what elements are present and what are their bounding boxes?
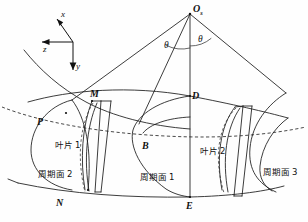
label-point-N: N xyxy=(56,198,63,208)
cone-ray-to-B xyxy=(139,14,190,124)
annulus-top-rim-arc xyxy=(28,90,288,118)
label-periodic-surface-2: 周期面 2 xyxy=(38,170,72,179)
shroud-generator-curve xyxy=(24,50,190,129)
blade-2-suction-curve xyxy=(225,108,240,192)
label-point-D: D xyxy=(192,91,199,101)
periodic-surface-3-group xyxy=(250,93,288,192)
diagram-svg xyxy=(0,0,308,222)
hidden-mid-arc xyxy=(2,107,306,137)
annulus-bottom-rim-arc xyxy=(18,183,284,197)
label-blade-2: 叶片 2 xyxy=(200,147,225,156)
label-periodic-surface-3: 周期面 3 xyxy=(263,168,297,177)
cone-right-edge xyxy=(190,14,286,93)
label-apex-Os: Os xyxy=(193,4,203,17)
blade-1-group xyxy=(80,101,111,192)
coordinate-axes-group xyxy=(42,19,76,70)
periodic-surface-1-inner-fold xyxy=(143,117,190,133)
label-axis-z: z xyxy=(43,45,47,54)
label-axis-y: y xyxy=(76,62,80,71)
axis-x-arrowhead xyxy=(57,19,63,26)
point-marker-N xyxy=(87,189,89,191)
point-marker-D xyxy=(189,95,191,97)
point-markers-group xyxy=(65,13,191,198)
blade-1-panel-left-line xyxy=(95,101,101,192)
periodic-surface-3-hub-curve xyxy=(260,118,288,191)
label-point-P: P xyxy=(37,117,43,127)
point-marker-P xyxy=(65,112,67,114)
label-blade-1: 叶片 1 xyxy=(55,141,80,150)
label-periodic-surface-1: 周期面 1 xyxy=(140,173,174,182)
angle-arcs-group xyxy=(167,39,212,50)
point-marker-E xyxy=(189,196,191,198)
figure-canvas: Os θ θ x y z M P B D N E 叶片 1 叶片 2 周期面 2… xyxy=(0,0,308,222)
blade-1-panel-right-line xyxy=(101,101,111,192)
label-axis-x: x xyxy=(61,10,65,19)
label-apex-subscript: s xyxy=(200,9,203,16)
cone-fan-group xyxy=(72,14,286,197)
point-marker-apex xyxy=(189,13,191,15)
periodic-surface-3-outline xyxy=(250,93,286,192)
angle-arc-left xyxy=(167,46,191,50)
label-theta-left: θ xyxy=(164,41,169,51)
label-point-M: M xyxy=(90,89,99,99)
label-theta-right: θ xyxy=(198,35,203,45)
point-marker-M xyxy=(91,100,93,102)
blade-2-panel-right-line xyxy=(242,106,252,196)
label-point-E: E xyxy=(186,201,193,211)
lower-left-tangent-line xyxy=(8,179,18,183)
blade-2-panel-left-line xyxy=(234,106,243,196)
label-point-B: B xyxy=(142,141,149,151)
